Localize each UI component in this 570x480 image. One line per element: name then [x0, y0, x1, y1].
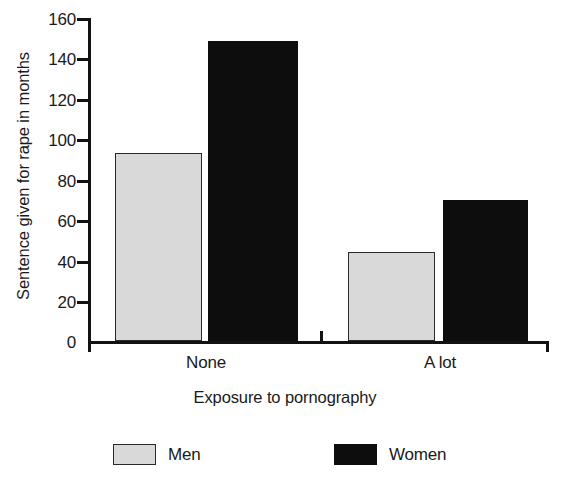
y-tick-60 [77, 220, 88, 223]
x-axis-end-tick-right [546, 344, 549, 352]
x-axis-end-tick-left [88, 344, 91, 352]
y-tick-label-100: 100 [16, 132, 76, 149]
y-tick-label-120: 120 [16, 92, 76, 109]
legend-label-men: Men [168, 444, 200, 465]
x-category-label-none: None [146, 352, 266, 374]
y-tick-label-0: 0 [16, 334, 76, 351]
y-tick-100 [77, 139, 88, 142]
black-swatch-icon [334, 444, 377, 465]
legend-entry-men[interactable]: Men [113, 440, 200, 468]
legend-label-women: Women [389, 444, 446, 465]
bar-men-a-lot[interactable] [348, 252, 435, 341]
bar-men-none[interactable] [115, 153, 202, 341]
y-tick-label-80: 80 [16, 173, 76, 190]
y-tick-label-40: 40 [16, 254, 76, 271]
bar-women-none[interactable] [208, 41, 298, 341]
y-tick-140 [77, 58, 88, 61]
bars-layer [88, 18, 549, 341]
y-tick-120 [77, 99, 88, 102]
x-category-label-a-lot: A lot [380, 352, 500, 374]
y-tick-label-60: 60 [16, 213, 76, 230]
y-tick-20 [77, 301, 88, 304]
y-tick-40 [77, 261, 88, 264]
bar-women-a-lot[interactable] [443, 200, 528, 341]
x-axis-title: Exposure to pornography [0, 386, 570, 408]
y-tick-80 [77, 180, 88, 183]
y-tick-label-20: 20 [16, 294, 76, 311]
y-tick-label-140: 140 [16, 51, 76, 68]
legend: Men Women [0, 440, 570, 472]
gray-swatch-icon [113, 444, 156, 465]
legend-entry-women[interactable]: Women [334, 440, 446, 468]
y-tick-160 [77, 18, 88, 21]
bar-chart: Sentence given for rape in months 160 14… [0, 0, 570, 480]
x-axis-line [88, 341, 549, 344]
y-tick-label-160: 160 [16, 11, 76, 28]
